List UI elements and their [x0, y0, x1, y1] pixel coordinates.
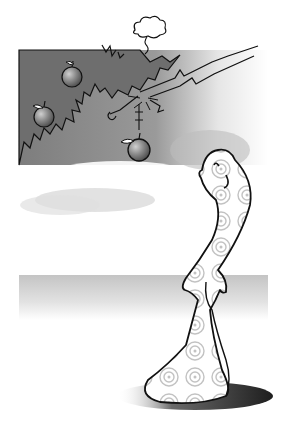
- cloud-icon: [134, 16, 166, 37]
- horizon-band: [19, 275, 268, 320]
- illustration: [0, 0, 286, 431]
